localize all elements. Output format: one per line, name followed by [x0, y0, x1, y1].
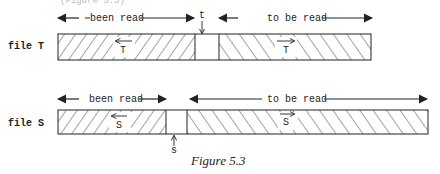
file-t-diagram: been read to be read t file T T T [8, 10, 372, 60]
t-right-dir-label: T [283, 45, 289, 56]
file-t-label: file T [8, 41, 44, 52]
t-left-dir-label: T [120, 45, 126, 56]
s-to-be-read-label: to be read [267, 94, 327, 105]
s-right-dir-label: S [283, 117, 289, 128]
t-pointer-label: t [199, 10, 205, 21]
t-to-be-read-label: to be read [267, 13, 327, 24]
s-unread-region [187, 110, 428, 134]
s-pointer-label: s [171, 145, 177, 156]
figure-caption: Figure 5.3 [190, 153, 246, 168]
file-s-label: file S [8, 118, 44, 129]
s-current-record [166, 110, 187, 134]
t-current-record [195, 34, 219, 60]
t-been-read-label: been read [90, 13, 144, 24]
s-been-read-label: been read [89, 94, 143, 105]
s-left-dir-label: S [116, 120, 122, 131]
header-fragment: (Figure 5.3) [60, 0, 125, 6]
diagram-canvas: (Figure 5.3) been read to be read t file… [0, 0, 440, 174]
file-s-diagram: been read to be read file S S S s [8, 94, 428, 156]
